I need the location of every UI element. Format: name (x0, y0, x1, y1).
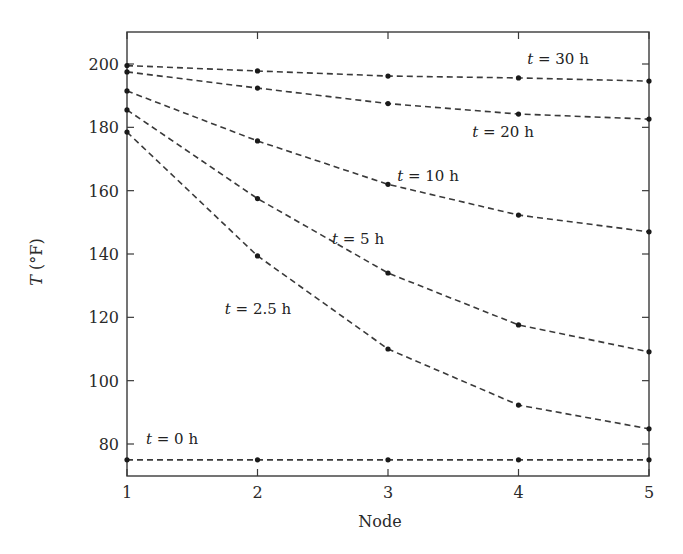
x-tick-label: 5 (644, 483, 654, 502)
data-point (646, 426, 651, 431)
data-point (516, 111, 521, 116)
series-label: t = 20 h (472, 123, 534, 141)
data-point (255, 85, 260, 90)
series-label-value: = 30 h (533, 50, 589, 68)
series-line (127, 132, 649, 429)
series-label-value: = 5 h (338, 230, 384, 248)
data-point (646, 117, 651, 122)
data-point (124, 63, 129, 68)
y-tick-label: 80 (99, 435, 119, 454)
data-point (255, 196, 260, 201)
series-line (127, 110, 649, 352)
series-label: t = 10 h (397, 167, 459, 185)
data-point (385, 73, 390, 78)
data-point (646, 79, 651, 84)
y-tick-label: 160 (88, 182, 119, 201)
series-t-5h (124, 107, 651, 354)
series-label-value: = 10 h (403, 167, 459, 185)
series-label: t = 30 h (527, 50, 589, 68)
line-chart: 12345 80100120140160180200 t = 0 ht = 2.… (0, 0, 683, 554)
data-point (516, 457, 521, 462)
data-point (255, 138, 260, 143)
data-point (516, 402, 521, 407)
y-axis: 80100120140160180200 (88, 55, 649, 454)
y-tick-label: 140 (88, 245, 119, 264)
data-point (385, 182, 390, 187)
data-point (385, 346, 390, 351)
y-tick-label: 180 (88, 118, 119, 137)
data-point (516, 322, 521, 327)
series-labels: t = 0 ht = 2.5 ht = 5 ht = 10 ht = 20 ht… (146, 50, 589, 448)
data-point (255, 457, 260, 462)
data-point (124, 69, 129, 74)
data-point (385, 457, 390, 462)
x-tick-label: 4 (513, 483, 523, 502)
series-line (127, 91, 649, 232)
y-tick-label: 100 (88, 372, 119, 391)
series-label-value: = 20 h (478, 123, 534, 141)
data-point (385, 270, 390, 275)
y-axis-title: T (°F) (27, 238, 46, 285)
x-axis-title: Node (358, 512, 401, 531)
series-label-value: = 0 h (152, 430, 198, 448)
data-point (646, 229, 651, 234)
data-point (646, 457, 651, 462)
y-tick-label: 120 (88, 308, 119, 327)
y-tick-label: 200 (88, 55, 119, 74)
plot-frame (127, 32, 649, 476)
data-point (124, 129, 129, 134)
x-tick-label: 2 (252, 483, 262, 502)
series-label: t = 2.5 h (225, 300, 292, 318)
data-point (255, 68, 260, 73)
x-tick-label: 3 (383, 483, 393, 502)
series-label-value: = 2.5 h (231, 300, 292, 318)
data-point (516, 212, 521, 217)
data-point (124, 88, 129, 93)
plot-border (127, 32, 649, 476)
series-t-0h (124, 457, 651, 462)
data-point (646, 349, 651, 354)
y-axis-unit: (°F) (27, 238, 46, 275)
series-layer (124, 63, 651, 462)
data-point (124, 457, 129, 462)
data-point (255, 253, 260, 258)
series-label: t = 0 h (146, 430, 198, 448)
x-tick-label: 1 (122, 483, 132, 502)
series-label: t = 5 h (332, 230, 384, 248)
series-t-2-5h (124, 129, 651, 431)
data-point (385, 101, 390, 106)
data-point (516, 75, 521, 80)
data-point (124, 107, 129, 112)
